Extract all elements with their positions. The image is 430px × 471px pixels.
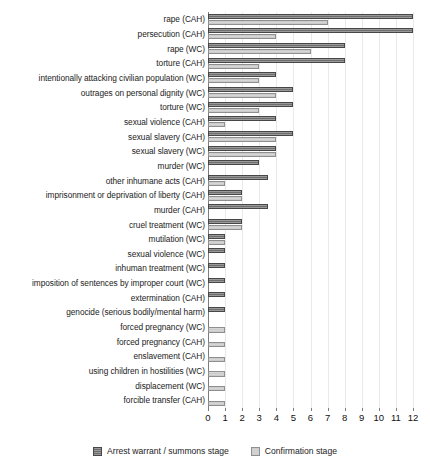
category-label: forced pregnancy (CAH) bbox=[117, 338, 205, 346]
chart-row: forced pregnancy (WC) bbox=[0, 320, 430, 335]
chart-row: displacement (WC) bbox=[0, 378, 430, 393]
legend-item[interactable]: Confirmation stage bbox=[251, 446, 337, 456]
bar-confirmation bbox=[208, 225, 242, 230]
bar-arrest-warrant bbox=[208, 204, 268, 209]
chart-row: inhuman treatment (WC) bbox=[0, 261, 430, 276]
bar-arrest-warrant bbox=[208, 146, 276, 151]
x-tick bbox=[345, 408, 346, 411]
bar-arrest-warrant bbox=[208, 43, 345, 48]
bar-group bbox=[208, 394, 413, 407]
category-label: using children in hostilities (WC) bbox=[89, 367, 205, 375]
category-label: sexual slavery (CAH) bbox=[128, 132, 205, 140]
category-label: torture (CAH) bbox=[156, 59, 205, 67]
x-tick bbox=[259, 408, 260, 411]
chart-row: forcible transfer (CAH) bbox=[0, 393, 430, 408]
category-label: other inhumane acts (CAH) bbox=[106, 176, 205, 184]
category-label: outrages on personal dignity (WC) bbox=[81, 88, 205, 96]
x-tick-label: 4 bbox=[274, 412, 279, 423]
chart-row: genocide (serious bodily/mental harm) bbox=[0, 305, 430, 320]
bar-confirmation bbox=[208, 137, 276, 142]
bar-arrest-warrant bbox=[208, 234, 225, 239]
category-label: imposition of sentences by improper cour… bbox=[32, 279, 205, 287]
bar-group bbox=[208, 189, 413, 202]
bar-arrest-warrant bbox=[208, 190, 242, 195]
bar-confirmation bbox=[208, 20, 328, 25]
x-tick bbox=[225, 408, 226, 411]
chart-row: torture (WC) bbox=[0, 100, 430, 115]
bar-group bbox=[208, 72, 413, 85]
x-tick-label: 0 bbox=[205, 412, 210, 423]
bar-group bbox=[208, 130, 413, 143]
x-tick bbox=[396, 408, 397, 411]
bar-group bbox=[208, 174, 413, 187]
x-tick bbox=[328, 408, 329, 411]
category-label: cruel treatment (WC) bbox=[129, 220, 205, 228]
x-tick bbox=[208, 408, 209, 411]
bar-group bbox=[208, 57, 413, 70]
bar-arrest-warrant bbox=[208, 102, 293, 107]
legend-label: Confirmation stage bbox=[265, 446, 337, 456]
bar-arrest-warrant bbox=[208, 14, 413, 19]
bar-arrest-warrant bbox=[208, 58, 345, 63]
category-label: intentionally attacking civilian populat… bbox=[39, 74, 205, 82]
category-label: rape (WC) bbox=[167, 44, 205, 52]
bar-arrest-warrant bbox=[208, 307, 225, 312]
bar-group bbox=[208, 321, 413, 334]
bar-group bbox=[208, 42, 413, 55]
chart-row: persecution (CAH) bbox=[0, 27, 430, 42]
x-tick bbox=[362, 408, 363, 411]
chart-row: sexual violence (WC) bbox=[0, 247, 430, 262]
chart-row: torture (CAH) bbox=[0, 56, 430, 71]
bar-confirmation bbox=[208, 196, 242, 201]
category-label: forced pregnancy (WC) bbox=[120, 323, 205, 331]
bar-confirmation bbox=[208, 108, 259, 113]
category-label: imprisonment or deprivation of liberty (… bbox=[46, 191, 205, 199]
x-tick-label: 9 bbox=[359, 412, 364, 423]
legend-swatch-light bbox=[251, 447, 260, 456]
bar-arrest-warrant bbox=[208, 87, 293, 92]
category-label: murder (CAH) bbox=[154, 206, 205, 214]
bar-arrest-warrant bbox=[208, 116, 276, 121]
bar-group bbox=[208, 233, 413, 246]
x-axis: 0123456789101112 bbox=[208, 408, 413, 410]
bar-arrest-warrant bbox=[208, 28, 413, 33]
x-tick-label: 11 bbox=[391, 412, 401, 423]
chart-row: sexual slavery (WC) bbox=[0, 144, 430, 159]
bar-group bbox=[208, 262, 413, 275]
bar-arrest-warrant bbox=[208, 72, 276, 77]
legend-item[interactable]: Arrest warrant / summons stage bbox=[93, 446, 229, 456]
bar-arrest-warrant bbox=[208, 131, 293, 136]
chart-row: imprisonment or deprivation of liberty (… bbox=[0, 188, 430, 203]
bar-arrest-warrant bbox=[208, 278, 225, 283]
category-label: forcible transfer (CAH) bbox=[124, 396, 205, 404]
bar-group bbox=[208, 306, 413, 319]
x-tick-label: 12 bbox=[408, 412, 419, 423]
x-tick bbox=[276, 408, 277, 411]
bar-group bbox=[208, 86, 413, 99]
category-label: inhuman treatment (WC) bbox=[115, 264, 205, 272]
bar-group bbox=[208, 277, 413, 290]
bar-confirmation bbox=[208, 327, 225, 332]
bar-group bbox=[208, 28, 413, 41]
x-tick bbox=[311, 408, 312, 411]
x-tick bbox=[293, 408, 294, 411]
bar-arrest-warrant bbox=[208, 248, 225, 253]
category-label: sexual violence (WC) bbox=[128, 250, 205, 258]
bar-confirmation bbox=[208, 357, 225, 362]
category-label: sexual violence (CAH) bbox=[124, 118, 205, 126]
legend-swatch-dark bbox=[93, 447, 102, 456]
bar-confirmation bbox=[208, 64, 259, 69]
chart-row: sexual violence (CAH) bbox=[0, 115, 430, 130]
category-label: rape (CAH) bbox=[164, 15, 205, 23]
category-label: murder (WC) bbox=[158, 162, 205, 170]
bar-arrest-warrant bbox=[208, 292, 225, 297]
chart-row: murder (WC) bbox=[0, 159, 430, 174]
legend-label: Arrest warrant / summons stage bbox=[107, 446, 229, 456]
x-tick bbox=[413, 408, 414, 411]
bar-group bbox=[208, 101, 413, 114]
bar-confirmation bbox=[208, 93, 276, 98]
chart-rows: rape (CAH)persecution (CAH)rape (WC)tort… bbox=[0, 12, 430, 408]
chart-row: using children in hostilities (WC) bbox=[0, 364, 430, 379]
category-label: enslavement (CAH) bbox=[133, 352, 205, 360]
bar-confirmation bbox=[208, 34, 276, 39]
